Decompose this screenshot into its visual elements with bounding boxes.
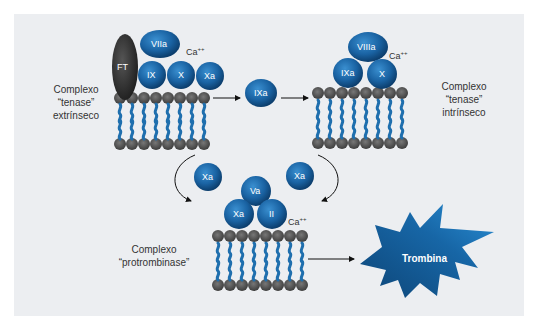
label-xa: Xa [204, 71, 215, 81]
label-x-intrinsic: X [379, 69, 385, 79]
calcium-intrinsic: Ca++ [389, 50, 408, 61]
label-free-xa-right: Xa [294, 171, 305, 181]
protein-labels: FT VIIa IX X Xa IXa VIIIa IXa X Xa Xa Va… [0, 0, 538, 328]
label-complex-intrinsic: Complexo “tenase” intrínseco [428, 80, 500, 119]
label-ft: FT [117, 62, 128, 72]
calcium-prothrombinase: Ca++ [288, 216, 307, 227]
label-ix: IX [147, 70, 156, 80]
label-va: Va [250, 186, 260, 196]
label-free-xa-left: Xa [202, 172, 213, 182]
label-ixa: IXa [341, 68, 355, 78]
label-viiia: VIIIa [357, 42, 376, 52]
label-x: X [178, 70, 184, 80]
label-thrombin: Trombina [402, 253, 447, 264]
label-viia: VIIa [151, 39, 167, 49]
calcium-extrinsic: Ca++ [186, 46, 205, 57]
label-free-ixa: IXa [254, 88, 268, 98]
label-ii: II [269, 209, 274, 219]
label-xa-prothrombinase: Xa [233, 209, 244, 219]
label-complex-extrinsic: Complexo “tenase” extrínseco [40, 83, 112, 122]
label-complex-prothrombinase: Complexo “protrombinase” [110, 243, 198, 269]
